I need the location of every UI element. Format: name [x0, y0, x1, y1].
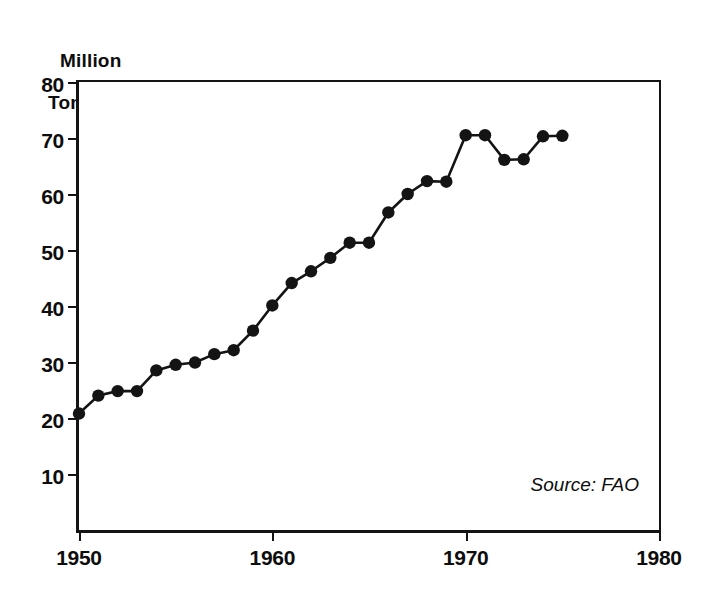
- y-tick-10: 10: [68, 474, 79, 476]
- data-point-1960: [266, 299, 278, 311]
- x-tick-1980: [659, 530, 661, 541]
- data-point-1953: [131, 385, 143, 397]
- data-point-1971: [479, 129, 491, 141]
- data-point-1975: [556, 130, 568, 142]
- data-point-1959: [247, 324, 259, 336]
- y-tick-label-50: 50: [41, 241, 64, 265]
- x-tick-label-1980: 1980: [636, 546, 682, 570]
- y-tick-label-20: 20: [41, 409, 64, 433]
- source-annotation: Source: FAO: [531, 474, 639, 496]
- data-point-1950: [73, 407, 85, 419]
- data-point-1973: [517, 153, 529, 165]
- x-tick-1950: [79, 530, 81, 541]
- y-tick-40: 40: [68, 306, 79, 308]
- y-tick-60: 60: [68, 194, 79, 196]
- data-point-1966: [382, 206, 394, 218]
- data-point-1965: [363, 237, 375, 249]
- x-tick-label-1950: 1950: [56, 546, 102, 570]
- x-tick-1970: [466, 530, 468, 541]
- data-point-1957: [208, 348, 220, 360]
- y-tick-label-10: 10: [41, 465, 64, 489]
- data-point-1955: [169, 359, 181, 371]
- data-point-1952: [111, 385, 123, 397]
- x-tick-label-1960: 1960: [250, 546, 296, 570]
- data-point-1961: [285, 277, 297, 289]
- data-point-1972: [498, 154, 510, 166]
- data-point-1951: [92, 389, 104, 401]
- y-tick-30: 30: [68, 362, 79, 364]
- data-point-1970: [459, 129, 471, 141]
- y-tick-50: 50: [68, 250, 79, 252]
- y-tick-label-80: 80: [41, 73, 64, 97]
- data-point-1974: [537, 130, 549, 142]
- y-tick-label-70: 70: [41, 129, 64, 153]
- y-tick-label-40: 40: [41, 297, 64, 321]
- data-point-1956: [189, 356, 201, 368]
- data-point-1954: [150, 364, 162, 376]
- data-point-1962: [305, 265, 317, 277]
- data-point-1969: [440, 175, 452, 187]
- data-point-1958: [227, 344, 239, 356]
- data-point-1963: [324, 252, 336, 264]
- plot-area: 1020304050607080 1950196019701980 Source…: [76, 80, 661, 533]
- x-tick-label-1970: 1970: [443, 546, 489, 570]
- line-series: [79, 82, 659, 530]
- y-tick-80: 80: [68, 82, 79, 84]
- y-tick-label-30: 30: [41, 353, 64, 377]
- data-point-1964: [343, 237, 355, 249]
- x-tick-1960: [272, 530, 274, 541]
- data-point-1967: [401, 188, 413, 200]
- data-point-1968: [421, 175, 433, 187]
- chart-page: Million Tons 1020304050607080 1950196019…: [0, 0, 719, 593]
- y-axis-title-line1: Million: [60, 50, 122, 71]
- y-tick-label-60: 60: [41, 185, 64, 209]
- y-tick-70: 70: [68, 138, 79, 140]
